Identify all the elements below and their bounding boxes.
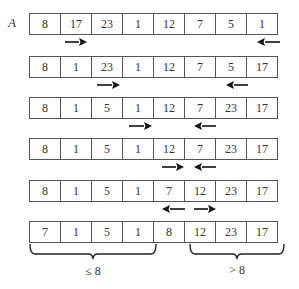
left-arrow-icon xyxy=(162,205,185,213)
array-cell: 12 xyxy=(153,13,185,35)
array-cell: 1 xyxy=(122,56,154,78)
array-cell: 7 xyxy=(184,56,216,78)
right-arrow-icon xyxy=(97,81,120,89)
array-cell: 17 xyxy=(246,221,278,243)
array-row-step-2: 8 1 23 1 12 7 5 17 xyxy=(29,56,285,78)
array-cell: 23 xyxy=(215,180,247,202)
array-cell: 12 xyxy=(153,56,185,78)
array-row-step-6: 7 1 5 1 8 12 23 17 xyxy=(29,221,285,243)
array-row-step-3: 8 1 5 1 12 7 23 17 xyxy=(29,97,285,119)
array-cell: 7 xyxy=(184,138,216,160)
array-cell: 1 xyxy=(60,221,92,243)
array-cell: 12 xyxy=(153,97,185,119)
array-row-step-5: 8 1 5 1 7 12 23 17 xyxy=(29,180,285,202)
array-cell: 7 xyxy=(153,180,185,202)
array-cell: 8 xyxy=(29,138,61,160)
array-cell: 23 xyxy=(91,56,123,78)
array-cell: 5 xyxy=(215,56,247,78)
array-cell: 5 xyxy=(91,97,123,119)
brace-right-partition xyxy=(190,244,284,259)
array-cell: 1 xyxy=(60,180,92,202)
array-cell: 7 xyxy=(184,97,216,119)
array-cell: 1 xyxy=(60,97,92,119)
array-cell: 17 xyxy=(246,56,278,78)
left-arrow-icon xyxy=(226,81,248,89)
array-cell: 5 xyxy=(215,13,247,35)
array-cell: 23 xyxy=(215,138,247,160)
array-cell: 23 xyxy=(215,97,247,119)
array-cell: 17 xyxy=(246,138,278,160)
array-row-step-4: 8 1 5 1 12 7 23 17 xyxy=(29,138,285,160)
right-arrow-icon xyxy=(194,205,216,213)
array-cell: 12 xyxy=(184,180,216,202)
array-cell: 1 xyxy=(246,13,278,35)
array-cell: 23 xyxy=(91,13,123,35)
array-cell: 17 xyxy=(246,97,278,119)
brace-left-partition xyxy=(30,244,156,259)
array-cell: 8 xyxy=(153,221,185,243)
array-cell: 17 xyxy=(246,180,278,202)
array-label: A xyxy=(8,15,16,31)
array-cell: 8 xyxy=(29,56,61,78)
partition-label-right: > 8 xyxy=(229,263,245,278)
array-cell: 1 xyxy=(122,138,154,160)
array-cell: 1 xyxy=(122,97,154,119)
array-cell: 1 xyxy=(60,138,92,160)
array-cell: 23 xyxy=(215,221,247,243)
left-arrow-icon xyxy=(194,122,216,130)
array-cell: 7 xyxy=(29,221,61,243)
array-cell: 8 xyxy=(29,180,61,202)
right-arrow-icon xyxy=(162,163,184,171)
array-cell: 1 xyxy=(122,13,154,35)
array-cell: 7 xyxy=(184,13,216,35)
array-cell: 12 xyxy=(184,221,216,243)
quicksort-partition-diagram: A 8 17 23 1 12 7 5 1 8 1 23 1 12 7 5 17 … xyxy=(0,0,299,289)
array-cell: 12 xyxy=(153,138,185,160)
array-row-step-1: 8 17 23 1 12 7 5 1 xyxy=(29,13,285,35)
left-arrow-icon xyxy=(194,163,216,171)
array-cell: 17 xyxy=(60,13,92,35)
array-cell: 1 xyxy=(122,221,154,243)
right-arrow-icon xyxy=(65,38,87,46)
left-arrow-icon xyxy=(257,38,280,46)
array-cell: 5 xyxy=(91,138,123,160)
array-cell: 5 xyxy=(91,180,123,202)
array-cell: 8 xyxy=(29,97,61,119)
array-cell: 1 xyxy=(122,180,154,202)
right-arrow-icon xyxy=(129,122,152,130)
array-cell: 5 xyxy=(91,221,123,243)
array-cell: 8 xyxy=(29,13,61,35)
array-cell: 1 xyxy=(60,56,92,78)
partition-label-left: ≤ 8 xyxy=(85,264,101,279)
